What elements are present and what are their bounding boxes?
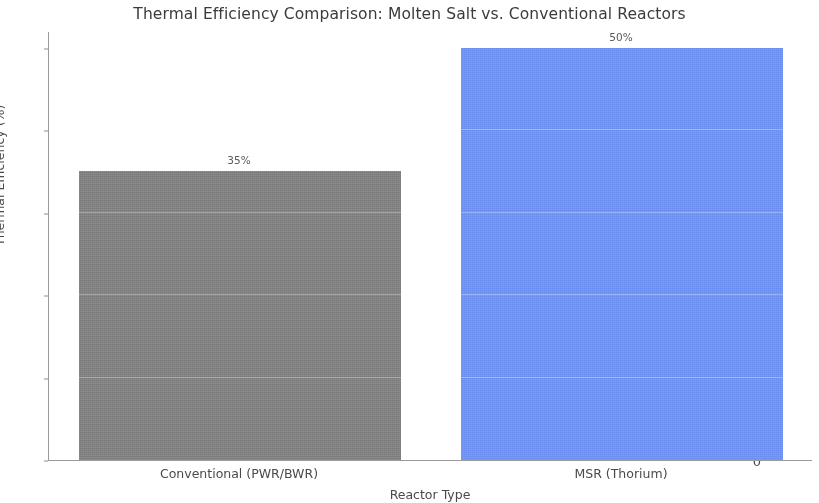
plot-area bbox=[48, 32, 812, 461]
bars-layer bbox=[49, 32, 812, 460]
chart-title: Thermal Efficiency Comparison: Molten Sa… bbox=[0, 5, 819, 23]
bar-value-label: 50% bbox=[609, 31, 632, 43]
chart-figure: Thermal Efficiency Comparison: Molten Sa… bbox=[0, 0, 819, 503]
bar-fill bbox=[461, 48, 784, 461]
bar-value-label: 35% bbox=[227, 154, 250, 166]
x-axis-label: Reactor Type bbox=[48, 487, 812, 502]
bar[interactable] bbox=[461, 48, 784, 461]
x-tick-label: MSR (Thorium) bbox=[574, 466, 667, 481]
y-axis-label: Thermal Efficiency (%) bbox=[0, 105, 7, 246]
bar[interactable] bbox=[79, 171, 402, 460]
x-tick-label: Conventional (PWR/BWR) bbox=[160, 466, 318, 481]
bar-fill bbox=[79, 171, 402, 460]
